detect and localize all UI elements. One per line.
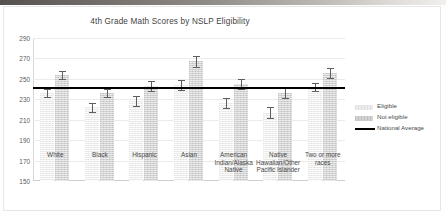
error-bar-cap-bottom bbox=[44, 97, 51, 98]
bar bbox=[174, 85, 188, 181]
legend-item[interactable]: Eligible bbox=[355, 102, 443, 113]
category-label: Two or moreraces bbox=[293, 151, 352, 166]
y-axis-tick: 150 bbox=[4, 178, 30, 185]
bar bbox=[129, 101, 143, 181]
error-bar bbox=[47, 89, 48, 97]
error-bar-cap-top bbox=[238, 79, 245, 80]
y-axis-tick: 290 bbox=[4, 35, 30, 42]
category-label-line: Pacific Islander bbox=[249, 166, 308, 174]
y-axis-tick: 270 bbox=[4, 55, 30, 62]
error-bar-cap-bottom bbox=[193, 67, 200, 68]
y-axis-tick: 210 bbox=[4, 116, 30, 123]
error-bar bbox=[107, 89, 108, 97]
error-bar-cap-top bbox=[178, 80, 185, 81]
error-bar-cap-bottom bbox=[178, 90, 185, 91]
error-bar-cap-bottom bbox=[282, 98, 289, 99]
error-bar-cap-bottom bbox=[238, 89, 245, 90]
bar bbox=[144, 86, 158, 181]
chart-title: 4th Grade Math Scores by NSLP Eligibilit… bbox=[0, 17, 340, 26]
category-label-line: Two or more bbox=[293, 151, 352, 159]
error-bar-cap-top bbox=[193, 56, 200, 57]
error-bar bbox=[151, 81, 152, 91]
error-bar bbox=[196, 56, 197, 66]
error-bar-cap-bottom bbox=[223, 108, 230, 109]
y-axis-tick-labels: 290270250230210190170150 bbox=[0, 38, 30, 181]
legend-swatch-icon bbox=[355, 116, 373, 121]
gridline bbox=[33, 38, 345, 39]
error-bar-cap-bottom bbox=[89, 112, 96, 113]
y-axis-tick: 230 bbox=[4, 96, 30, 103]
error-bar-cap-top bbox=[133, 96, 140, 97]
error-bar bbox=[92, 103, 93, 111]
error-bar-cap-bottom bbox=[148, 91, 155, 92]
legend-item[interactable]: Not eligible bbox=[355, 113, 443, 124]
error-bar-cap-bottom bbox=[59, 79, 66, 80]
error-bar-cap-top bbox=[44, 89, 51, 90]
gridline bbox=[33, 58, 345, 59]
error-bar-cap-top bbox=[223, 98, 230, 99]
error-bar-cap-top bbox=[267, 107, 274, 108]
category-label-line: races bbox=[293, 159, 352, 167]
error-bar-cap-bottom bbox=[327, 78, 334, 79]
national-average-line bbox=[33, 87, 345, 89]
error-bar-cap-top bbox=[148, 81, 155, 82]
y-axis-tick: 190 bbox=[4, 137, 30, 144]
error-bar-cap-top bbox=[312, 83, 319, 84]
legend-label: National Average bbox=[377, 124, 424, 131]
error-bar-cap-top bbox=[327, 68, 334, 69]
error-bar bbox=[62, 71, 63, 79]
chart-page: 4th Grade Math Scores by NSLP Eligibilit… bbox=[0, 5, 446, 217]
y-axis-line bbox=[33, 38, 34, 181]
legend-line-icon bbox=[355, 128, 375, 130]
bar bbox=[40, 93, 54, 181]
error-bar-cap-top bbox=[59, 71, 66, 72]
bar bbox=[189, 61, 203, 181]
error-bar-cap-bottom bbox=[133, 106, 140, 107]
error-bar-cap-bottom bbox=[267, 118, 274, 119]
error-bar-cap-top bbox=[89, 103, 96, 104]
error-bar bbox=[285, 88, 286, 98]
error-bar bbox=[226, 98, 227, 108]
bar bbox=[308, 87, 322, 181]
legend-item[interactable]: National Average bbox=[355, 124, 443, 135]
bar bbox=[100, 93, 114, 181]
error-bar bbox=[136, 96, 137, 106]
legend-label: Not eligible bbox=[377, 113, 408, 120]
bar bbox=[55, 75, 69, 181]
legend-swatch-icon bbox=[355, 105, 373, 110]
bar bbox=[85, 107, 99, 181]
error-bar-cap-bottom bbox=[312, 91, 319, 92]
error-bar-cap-bottom bbox=[104, 97, 111, 98]
error-bar-cap-top bbox=[104, 89, 111, 90]
error-bar bbox=[330, 68, 331, 78]
y-axis-tick: 250 bbox=[4, 75, 30, 82]
legend-label: Eligible bbox=[377, 102, 397, 109]
error-bar bbox=[270, 107, 271, 117]
chart-legend: EligibleNot eligibleNational Average bbox=[355, 102, 443, 135]
